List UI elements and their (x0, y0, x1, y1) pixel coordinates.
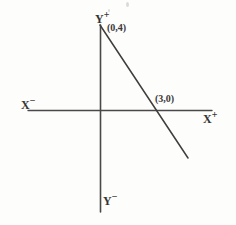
axis-label-y-positive-text: Y (95, 12, 104, 26)
axis-label-x-negative: X− (21, 96, 35, 111)
axis-label-y-positive-sign: + (104, 9, 110, 20)
axis-label-y-negative-sign: − (112, 191, 118, 202)
point-label-x-intercept: (3,0) (155, 94, 174, 104)
scan-speckle (126, 2, 129, 7)
axes-and-line-drawing (0, 0, 236, 225)
axis-label-x-positive-text: X (203, 112, 212, 126)
axis-label-x-negative-sign: − (30, 95, 36, 106)
plotted-line (100, 25, 188, 158)
point-label-y-intercept: (0,4) (107, 23, 126, 33)
axis-label-y-negative: Y− (103, 192, 117, 207)
coordinate-plane-figure: Y+ Y− X− X+ (0,4) (3,0) (0, 0, 236, 225)
axis-label-x-negative-text: X (21, 98, 30, 112)
axis-label-y-negative-text: Y (103, 194, 112, 208)
axis-label-x-positive-sign: + (212, 109, 218, 120)
axis-label-x-positive: X+ (203, 110, 217, 125)
